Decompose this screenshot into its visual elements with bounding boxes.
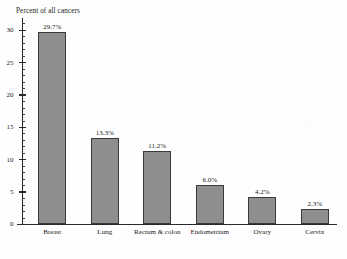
y-tick-minor: [22, 146, 25, 147]
bar-value-label: 11.2%: [148, 142, 166, 150]
y-tick-label: 10: [7, 156, 14, 164]
y-tick-minor: [22, 88, 25, 89]
y-tick-label: 30: [7, 26, 14, 34]
plot-area: 302520151050 29.7%Breast13.3%Lung11.2%Re…: [22, 18, 337, 225]
y-tick-major: 25: [19, 62, 26, 63]
y-tick-label: 20: [7, 91, 14, 99]
y-tick-minor: [22, 101, 25, 102]
y-tick-minor: [22, 82, 25, 83]
y-tick-minor: [22, 211, 25, 212]
y-tick-minor: [22, 36, 25, 37]
y-tick-major: 10: [19, 159, 26, 160]
bar: 29.7%Breast: [38, 32, 66, 224]
y-tick-minor: [22, 218, 25, 219]
y-tick-major: 20: [19, 94, 26, 95]
y-tick-label: 25: [7, 59, 14, 67]
bar: 13.3%Lung: [91, 138, 119, 224]
y-tick-minor: [22, 166, 25, 167]
chart-axis-title: Percent of all cancers: [16, 7, 80, 15]
y-tick-minor: [22, 56, 25, 57]
y-tick-minor: [22, 121, 25, 122]
y-tick-minor: [22, 185, 25, 186]
y-tick-minor: [22, 69, 25, 70]
x-axis-line: [17, 224, 337, 225]
y-tick-major: 30: [19, 30, 26, 31]
bar-value-label: 29.7%: [43, 23, 61, 31]
y-tick-minor: [22, 179, 25, 180]
bar-chart-figure: Percent of all cancers 302520151050 29.7…: [0, 0, 347, 259]
y-tick-major: 15: [19, 127, 26, 128]
y-tick-minor: [22, 172, 25, 173]
bar-value-label: 6.0%: [202, 176, 217, 184]
bar-value-label: 4.2%: [255, 188, 270, 196]
bar-value-label: 2.3%: [307, 200, 322, 208]
y-tick-minor: [22, 114, 25, 115]
y-tick-minor: [22, 23, 25, 24]
bar: 11.2%Rectum & colon: [143, 151, 171, 223]
x-category-label: Lung: [97, 228, 112, 236]
y-tick-label: 15: [7, 123, 14, 131]
bar: 4.2%Ovary: [248, 197, 276, 224]
bar: 2.3%Cervix: [301, 209, 329, 224]
y-tick-major: 0: [19, 224, 26, 225]
bar-value-label: 13.3%: [96, 129, 114, 137]
x-category-label: Endometrium: [191, 228, 230, 236]
x-category-label: Ovary: [254, 228, 272, 236]
y-tick-minor: [22, 43, 25, 44]
y-tick-minor: [22, 49, 25, 50]
x-category-label: Rectum & colon: [134, 228, 180, 236]
y-tick-minor: [22, 108, 25, 109]
y-tick-label: 5: [10, 188, 14, 196]
y-tick-minor: [22, 198, 25, 199]
x-category-label: Cervix: [305, 228, 324, 236]
y-tick-minor: [22, 75, 25, 76]
bar: 6.0%Endometrium: [196, 185, 224, 224]
y-tick-minor: [22, 133, 25, 134]
y-tick-minor: [22, 140, 25, 141]
y-tick-major: 5: [19, 191, 26, 192]
y-tick-minor: [22, 153, 25, 154]
y-tick-minor: [22, 205, 25, 206]
y-tick-label: 0: [10, 220, 14, 228]
x-category-label: Breast: [43, 228, 61, 236]
